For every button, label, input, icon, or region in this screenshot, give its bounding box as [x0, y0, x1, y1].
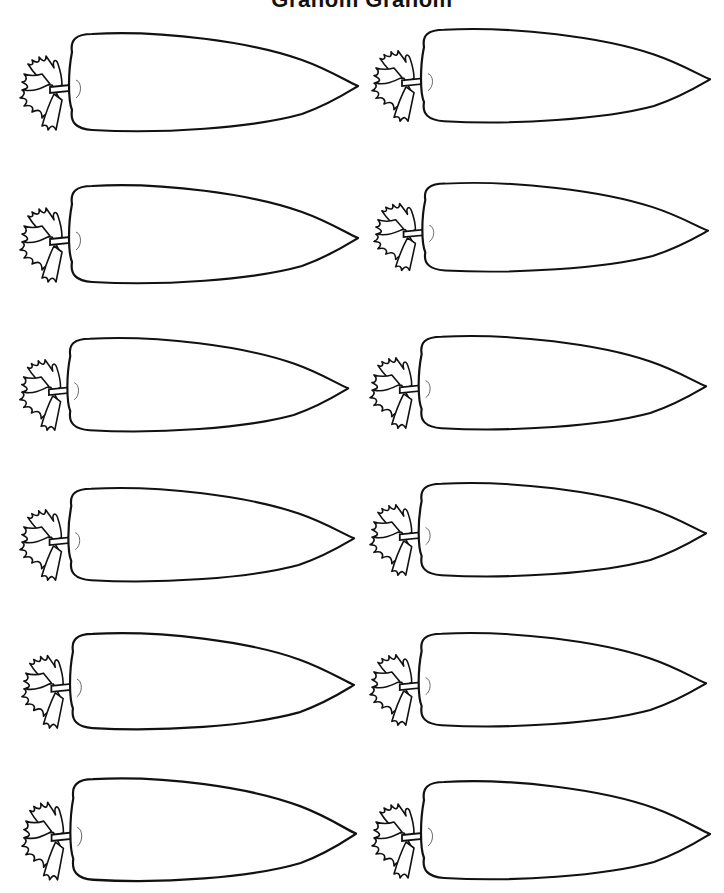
- carrot-icon: [12, 485, 358, 585]
- carrot-drawing-r3-c1: [12, 335, 352, 435]
- carrot-drawing-r6-c1: [14, 775, 360, 885]
- carrot-grid: [0, 0, 724, 893]
- carrot-icon: [362, 480, 710, 580]
- carrot-drawing-r4-c1: [12, 485, 358, 585]
- carrot-icon: [362, 630, 710, 730]
- carrot-drawing-r6-c2: [364, 778, 714, 883]
- carrot-icon: [366, 180, 712, 275]
- carrot-icon: [362, 333, 710, 433]
- carrot-drawing-r1-c2: [364, 26, 714, 126]
- carrot-icon: [364, 26, 714, 126]
- carrot-icon: [12, 30, 362, 135]
- carrot-drawing-r2-c2: [366, 180, 712, 275]
- carrot-drawing-r4-c2: [362, 480, 710, 580]
- carrot-icon: [14, 775, 360, 885]
- carrot-icon: [12, 182, 362, 287]
- carrot-drawing-r5-c2: [362, 630, 710, 730]
- carrot-drawing-r3-c2: [362, 333, 710, 433]
- carrot-drawing-r1-c1: [12, 30, 362, 135]
- carrot-drawing-r5-c1: [14, 630, 358, 733]
- carrot-icon: [12, 335, 352, 435]
- carrot-icon: [364, 778, 714, 883]
- carrot-drawing-r2-c1: [12, 182, 362, 287]
- carrot-icon: [14, 630, 358, 733]
